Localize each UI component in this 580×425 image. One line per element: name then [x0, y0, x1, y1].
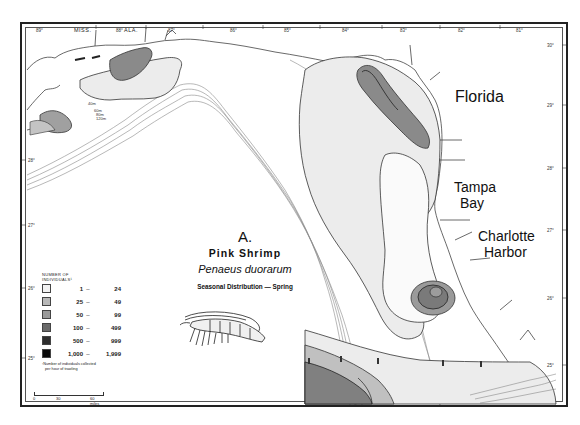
legend-swatch: [42, 349, 51, 358]
legend-max: 49: [93, 299, 121, 305]
scale-label-30: 30: [56, 396, 60, 401]
state-label-alabama: ALA.: [124, 27, 138, 33]
scale-label-0: 0: [33, 396, 35, 401]
lon-tick-87: 87°: [168, 28, 175, 33]
map-subtitle: Seasonal Distribution — Spring: [186, 282, 305, 291]
lon-tick-82: 82°: [458, 28, 465, 33]
legend-min: 1: [55, 286, 83, 292]
legend: NUMBER OF INDIVIDUALS¹ 1 – 24 25 – 49 50…: [42, 272, 152, 371]
shrimp-illustration: [180, 312, 265, 346]
lat-tick-27: 27°: [547, 228, 554, 233]
legend-item: 50 – 99: [42, 308, 152, 321]
legend-swatch: [42, 336, 51, 345]
legend-item: 25 – 49: [42, 295, 152, 308]
label-tampa-line1: Tampa: [454, 179, 496, 195]
zone-tortugas: [305, 330, 556, 404]
lat-tick-26: 26°: [547, 296, 554, 301]
legend-min: 100: [55, 325, 83, 331]
legend-min: 500: [55, 338, 83, 344]
legend-footnote-line2: per hour of trawling: [42, 367, 152, 372]
lat-tick-left-25: 25°: [28, 356, 35, 361]
lon-tick-84: 84°: [342, 28, 349, 33]
legend-dash: –: [83, 299, 93, 305]
zone-hotspot-charlotte: [411, 281, 455, 315]
lat-tick-25: 25°: [547, 363, 554, 368]
legend-dash: –: [83, 312, 93, 318]
lat-tick-29: 29°: [547, 103, 554, 108]
depth-label-120m: 120m: [96, 116, 106, 121]
legend-swatch: [42, 323, 51, 332]
zone-north-gulf: [30, 48, 182, 135]
legend-max: 999: [93, 338, 121, 344]
lon-tick-88: 88°: [116, 28, 123, 33]
lat-tick-28: 28°: [547, 166, 554, 171]
panel-letter: A.: [210, 228, 280, 245]
legend-item: 1,000 – 1,999: [42, 347, 152, 360]
legend-dash: –: [83, 338, 93, 344]
state-label-mississippi: MISS.: [74, 27, 91, 33]
legend-max: 24: [93, 286, 121, 292]
legend-item: 100 – 499: [42, 321, 152, 334]
label-florida: Florida: [455, 88, 504, 106]
lon-tick-86: 86°: [230, 28, 237, 33]
species-scientific-name: Penaeus duorarum: [175, 263, 315, 275]
label-tampa-bay: Tampa Bay: [454, 179, 496, 211]
legend-min: 25: [55, 299, 83, 305]
scale-label-60: 60 miles: [90, 396, 104, 406]
legend-max: 1,999: [93, 351, 121, 357]
label-charlotte-line1: Charlotte: [478, 228, 535, 244]
legend-max: 99: [93, 312, 121, 318]
lat-tick-30: 30°: [547, 43, 554, 48]
legend-footnote: ¹Number of individuals collected per hou…: [42, 362, 152, 371]
legend-item: 1 – 24: [42, 282, 152, 295]
label-charlotte-line2: Harbor: [478, 244, 535, 260]
lat-tick-left-26: 26°: [28, 286, 35, 291]
legend-max: 499: [93, 325, 121, 331]
lat-tick-left-28: 28°: [28, 158, 35, 163]
legend-swatch: [42, 284, 51, 293]
legend-swatch: [42, 310, 51, 319]
scale-bar-labels: 0 30 60 miles: [34, 396, 104, 402]
label-charlotte-harbor: Charlotte Harbor: [478, 228, 535, 260]
depth-label-40m: 40m: [88, 101, 96, 106]
legend-dash: –: [83, 351, 93, 357]
lon-tick-89: 89°: [36, 28, 43, 33]
legend-title: NUMBER OF INDIVIDUALS¹: [42, 272, 152, 282]
scale-bar: 0 30 60 miles: [34, 392, 104, 402]
lon-tick-85: 85°: [284, 28, 291, 33]
lat-tick-left-27: 27°: [28, 223, 35, 228]
legend-swatch: [42, 297, 51, 306]
lon-tick-83: 83°: [400, 28, 407, 33]
legend-min: 1,000: [55, 351, 83, 357]
label-tampa-line2: Bay: [454, 195, 496, 211]
legend-item: 500 – 999: [42, 334, 152, 347]
legend-dash: –: [83, 325, 93, 331]
lon-tick-81: 81°: [516, 28, 523, 33]
legend-min: 50: [55, 312, 83, 318]
legend-dash: –: [83, 286, 93, 292]
species-common-name: Pink Shrimp: [190, 247, 300, 259]
